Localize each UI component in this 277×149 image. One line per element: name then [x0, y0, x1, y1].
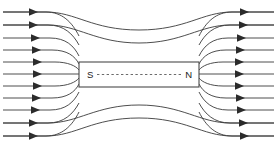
magnetic-field-diagram: S N [0, 0, 277, 149]
field-line-left-1 [3, 12, 79, 36]
arrow-icon-right-7 [235, 82, 244, 90]
arrow-icon-right-6 [235, 70, 244, 78]
field-line-left-10 [3, 103, 79, 123]
arrow-icon-right-10 [239, 119, 248, 127]
arrow-icon-left-9 [31, 106, 40, 114]
arrow-icon-right-9 [237, 106, 246, 114]
arrow-icon-right-5 [235, 58, 244, 66]
south-pole-label: S [87, 69, 93, 80]
field-line-left-7 [3, 78, 79, 86]
field-line-arc-top-outer [3, 12, 274, 30]
north-pole-label: N [185, 69, 192, 80]
arrow-icon-right-1 [240, 8, 249, 16]
field-line-left-2 [3, 25, 79, 45]
arrow-icon-left-5 [33, 58, 42, 66]
field-line-arc-top-inner [3, 25, 274, 43]
arrow-icon-right-8 [236, 94, 245, 102]
arrow-icon-left-8 [32, 94, 41, 102]
arrow-icon-right-2 [239, 21, 248, 29]
field-line-arc-bottom-outer [3, 118, 274, 136]
bar-magnet: S N [79, 62, 199, 87]
field-line-left-5 [3, 62, 79, 70]
arrow-icon-left-6 [33, 70, 42, 78]
arrow-icon-left-4 [32, 46, 41, 54]
arrow-icon-right-11 [240, 132, 249, 140]
arrow-icon-left-7 [33, 82, 42, 90]
arrow-icon-right-3 [237, 34, 246, 42]
arrow-icon-left-3 [31, 34, 40, 42]
field-line-canvas: S N [0, 0, 277, 149]
arrow-icon-right-4 [236, 46, 245, 54]
field-line-arc-bottom-inner [3, 105, 274, 123]
field-line-left-11 [3, 112, 79, 136]
